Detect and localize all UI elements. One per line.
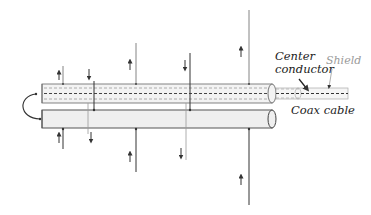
coax-cable-top — [42, 84, 276, 103]
return-conductor — [42, 110, 276, 128]
coax-cable-label: Coax cable — [291, 104, 355, 117]
coax-cable-extension — [276, 88, 348, 99]
shield-label: Shield — [326, 54, 361, 67]
center-conductor-pointer — [299, 79, 307, 89]
loop-wire — [23, 93, 41, 120]
